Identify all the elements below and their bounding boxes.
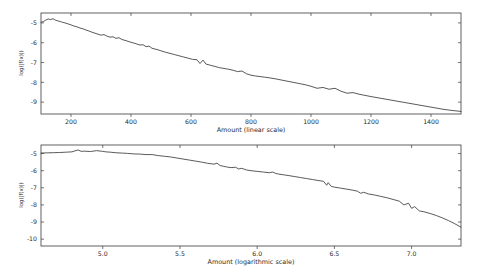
figure-canvas: 200400600800100012001400 -5-6-7-8-9 Amou… [0, 0, 484, 278]
y-tick-marks-logarithmic [41, 154, 461, 240]
x-tick-label: 200 [65, 118, 77, 125]
plot-frame-linear [41, 13, 461, 114]
y-tick-label: -9 [31, 98, 37, 105]
x-tick-label: 5.0 [98, 250, 108, 257]
x-tick-label: 400 [125, 118, 137, 125]
y-tick-label: -6 [31, 167, 37, 174]
y-axis-label-logarithmic: log(|f(x)|) [18, 182, 25, 207]
y-tick-label: -7 [31, 59, 37, 66]
y-tick-label: -9 [31, 218, 37, 225]
data-line [41, 19, 461, 112]
y-tick-label: -10 [27, 235, 37, 242]
plot-frame-logarithmic [41, 145, 461, 246]
y-tick-label: -5 [31, 19, 37, 26]
y-tick-labels-linear: -5-6-7-8-9 [31, 19, 37, 105]
x-tick-marks-logarithmic [103, 145, 412, 249]
y-tick-label: -5 [31, 150, 37, 157]
x-tick-label: 1400 [423, 118, 439, 125]
x-tick-marks-linear [71, 13, 431, 117]
x-tick-labels-linear: 200400600800100012001400 [65, 118, 439, 125]
y-tick-label: -8 [31, 79, 37, 86]
y-axis-label-linear: log(|f(x)|) [18, 50, 25, 75]
x-tick-label: 1200 [363, 118, 379, 125]
x-axis-label-logarithmic: Amount (logarithmic scale) [208, 258, 295, 266]
x-tick-label: 7.0 [407, 250, 417, 257]
x-tick-label: 600 [185, 118, 197, 125]
y-tick-labels-logarithmic: -5-6-7-8-9-10 [27, 150, 37, 243]
data-series-logarithmic [41, 150, 461, 227]
x-tick-label: 800 [245, 118, 257, 125]
x-axis-label-linear: Amount (linear scale) [217, 126, 286, 134]
y-tick-label: -8 [31, 201, 37, 208]
chart-panel-logarithmic: 5.05.56.06.57.0 -5-6-7-8-9-10 Amount (lo… [0, 139, 484, 278]
x-tick-label: 6.0 [252, 250, 262, 257]
data-line [41, 150, 461, 227]
data-series-linear [41, 19, 461, 112]
x-tick-label: 6.5 [329, 250, 339, 257]
x-tick-label: 5.5 [175, 250, 185, 257]
y-tick-label: -7 [31, 184, 37, 191]
x-tick-labels-logarithmic: 5.05.56.06.57.0 [98, 250, 417, 257]
x-tick-label: 1000 [303, 118, 319, 125]
y-tick-label: -6 [31, 39, 37, 46]
chart-panel-linear: 200400600800100012001400 -5-6-7-8-9 Amou… [0, 0, 484, 139]
